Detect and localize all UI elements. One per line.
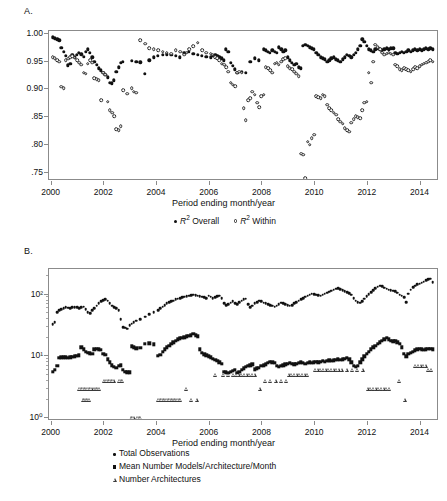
legend-marker-filled-square bbox=[110, 460, 119, 473]
x-tick-label: 2010 bbox=[305, 427, 324, 437]
y-tick-minor bbox=[46, 318, 48, 319]
x-tick-label: 2000 bbox=[41, 427, 60, 437]
y-tick-minor bbox=[46, 275, 48, 276]
data-point-small-dot bbox=[245, 297, 248, 300]
data-point-open-triangle bbox=[268, 379, 272, 383]
data-point-open-circle bbox=[244, 119, 248, 123]
data-point-open-circle bbox=[169, 52, 173, 56]
data-point-filled-square bbox=[152, 342, 155, 345]
data-point-small-dot bbox=[407, 292, 410, 295]
data-point-open-triangle bbox=[97, 387, 101, 391]
x-tick-mark bbox=[261, 421, 262, 425]
data-point-open-triangle bbox=[350, 368, 354, 372]
data-point-open-triangle bbox=[403, 398, 407, 402]
y-tick-minor bbox=[46, 369, 48, 370]
legend-label: Mean Number Models/Architecture/Month bbox=[119, 461, 276, 471]
data-point-filled-square bbox=[431, 348, 434, 351]
data-point-open-circle bbox=[187, 48, 191, 52]
data-point-small-dot bbox=[403, 296, 406, 299]
data-point-open-circle bbox=[121, 89, 125, 93]
data-point-open-circle bbox=[205, 51, 209, 55]
data-point-filled-square bbox=[77, 354, 80, 357]
x-tick-label: 2006 bbox=[199, 187, 218, 197]
y-tick-label: 10¹ bbox=[9, 350, 43, 360]
data-point-open-triangle bbox=[263, 379, 267, 383]
data-point-small-dot bbox=[95, 304, 98, 307]
y-tick-label: .75 bbox=[9, 167, 43, 177]
data-point-open-circle bbox=[143, 42, 147, 46]
data-point-open-circle bbox=[277, 63, 281, 67]
data-point-filled-circle bbox=[161, 53, 164, 56]
data-point-filled-circle bbox=[205, 55, 208, 58]
data-point-open-circle bbox=[234, 219, 238, 223]
y-tick-label: 10² bbox=[9, 289, 43, 299]
x-tick-mark bbox=[367, 421, 368, 425]
data-point-open-circle bbox=[112, 114, 116, 118]
y-tick-minor bbox=[46, 380, 48, 381]
data-point-open-triangle bbox=[120, 379, 124, 383]
data-point-open-circle bbox=[84, 72, 88, 76]
data-point-open-circle bbox=[352, 118, 356, 122]
data-point-filled-circle bbox=[196, 53, 199, 56]
data-point-open-triangle bbox=[429, 368, 433, 372]
data-point-small-dot bbox=[247, 303, 250, 306]
data-point-open-circle bbox=[303, 176, 307, 179]
y-tick-minor bbox=[46, 296, 48, 297]
x-tick-label: 2000 bbox=[41, 187, 60, 197]
data-point-open-circle bbox=[367, 71, 371, 75]
data-point-open-circle bbox=[152, 48, 156, 52]
data-point-small-dot bbox=[431, 281, 434, 284]
data-point-filled-square bbox=[143, 342, 146, 345]
data-point-open-circle bbox=[312, 133, 316, 137]
y-tick-label: 0.90 bbox=[9, 83, 43, 93]
data-point-open-triangle bbox=[253, 373, 257, 377]
x-tick-label: 2012 bbox=[357, 427, 376, 437]
data-point-small-dot bbox=[54, 321, 57, 324]
data-point-filled-circle bbox=[156, 54, 159, 57]
panel-b: B. 10²10¹10⁰ 200020022004200620082010201… bbox=[0, 240, 447, 501]
y-tick-mark bbox=[44, 294, 48, 295]
data-point-small-dot bbox=[251, 304, 254, 307]
data-point-filled-circle bbox=[359, 44, 362, 47]
x-tick-mark bbox=[156, 421, 157, 425]
data-point-open-circle bbox=[139, 39, 143, 43]
data-point-filled-circle bbox=[143, 72, 146, 75]
data-point-open-circle bbox=[224, 65, 228, 69]
x-tick-mark bbox=[51, 181, 52, 185]
data-point-open-circle bbox=[372, 60, 376, 64]
panel-b-legend: Total ObservationsMean Number Models/Arc… bbox=[0, 446, 447, 485]
data-point-open-triangle bbox=[305, 373, 309, 377]
data-point-filled-circle bbox=[82, 55, 85, 58]
data-point-open-triangle bbox=[184, 387, 188, 391]
data-point-small-dot bbox=[363, 297, 366, 300]
x-tick-mark bbox=[103, 181, 104, 185]
data-point-open-circle bbox=[156, 49, 160, 53]
data-point-open-triangle bbox=[138, 416, 142, 419]
y-tick-mark bbox=[44, 88, 48, 89]
data-point-open-circle bbox=[90, 61, 94, 65]
data-point-open-circle bbox=[227, 70, 231, 74]
data-point-small-dot bbox=[350, 293, 353, 296]
data-point-filled-circle bbox=[431, 48, 434, 51]
data-point-filled-circle bbox=[121, 60, 124, 63]
data-point-open-circle bbox=[134, 91, 138, 95]
data-point-open-circle bbox=[99, 99, 103, 103]
y-tick-minor bbox=[46, 303, 48, 304]
data-point-small-dot bbox=[93, 307, 96, 310]
data-point-filled-square bbox=[251, 363, 254, 366]
data-point-filled-square bbox=[135, 347, 138, 350]
data-point-open-circle bbox=[334, 113, 338, 117]
data-point-open-triangle bbox=[113, 478, 117, 482]
data-point-small-dot bbox=[148, 313, 151, 316]
data-point-filled-circle bbox=[58, 39, 61, 42]
data-point-filled-circle bbox=[178, 55, 181, 58]
data-point-open-circle bbox=[253, 93, 257, 97]
data-point-open-circle bbox=[148, 46, 152, 50]
data-point-open-circle bbox=[178, 50, 182, 54]
data-point-filled-circle bbox=[354, 51, 357, 54]
legend-entry: Mean Number Models/Architecture/Month bbox=[110, 459, 447, 472]
x-tick-label: 2006 bbox=[199, 427, 218, 437]
data-point-open-circle bbox=[174, 49, 178, 53]
data-point-filled-circle bbox=[299, 67, 302, 70]
y-tick-minor bbox=[46, 361, 48, 362]
